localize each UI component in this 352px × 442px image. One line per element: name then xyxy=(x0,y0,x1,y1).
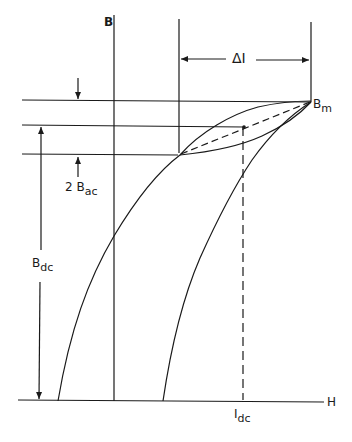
idc-label-sub: dc xyxy=(238,412,251,425)
h-axis xyxy=(18,400,324,402)
minor-loop-chord xyxy=(181,102,310,154)
min-level-line xyxy=(22,154,178,155)
bh-curve-diagram xyxy=(0,0,352,442)
two-bac-label-main: 2 B xyxy=(65,180,85,194)
bdc-label: Bdc xyxy=(32,257,53,269)
two-bac-label: 2 Bac xyxy=(65,181,97,193)
delta-i-label: ΔI xyxy=(232,51,246,65)
bm-label-main: B xyxy=(313,97,321,111)
idc-label: Idc xyxy=(234,408,251,420)
two-bac-label-sub: ac xyxy=(85,185,98,198)
bdc-arrow-down xyxy=(39,282,40,399)
bm-label-sub: m xyxy=(321,102,332,115)
bdc-label-sub: dc xyxy=(40,261,53,274)
bm-label: Bm xyxy=(313,98,332,110)
b-axis-label: B xyxy=(104,16,113,28)
bdc-label-main: B xyxy=(32,256,40,270)
idc-label-main: I xyxy=(234,407,238,421)
bm-level-line xyxy=(22,100,311,102)
right-magnetization-curve xyxy=(163,102,311,401)
bdc-level-line xyxy=(22,125,244,127)
bdc-operating-point xyxy=(242,125,246,129)
h-axis-label: H xyxy=(327,396,336,408)
